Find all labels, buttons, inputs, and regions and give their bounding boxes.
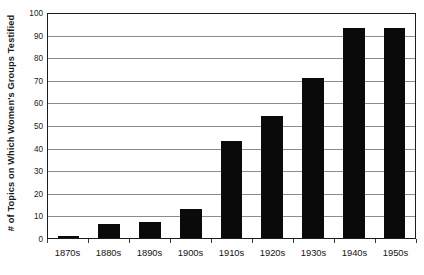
y-axis-tick-label: 70 [34, 76, 43, 85]
x-axis-tick-marks [47, 239, 416, 244]
y-axis-tick-label: 40 [34, 144, 43, 153]
bar-slot [333, 14, 374, 238]
x-axis-tick-label: 1940s [334, 245, 375, 265]
x-axis-tick-mark [47, 239, 48, 243]
bar-1890s [139, 222, 161, 238]
x-axis-tick-label: 1910s [211, 245, 252, 265]
bar-1920s [261, 116, 283, 238]
y-axis-tick-label: 20 [34, 189, 43, 198]
y-axis-tick-label: 90 [34, 31, 43, 40]
bar-1950s [384, 28, 406, 238]
bar-slot [170, 14, 211, 238]
y-axis-tick-label: 60 [34, 99, 43, 108]
x-axis-tick-label: 1920s [252, 245, 293, 265]
y-axis-tick-label: 30 [34, 167, 43, 176]
x-axis-tick-mark [170, 239, 171, 243]
bars-container [48, 14, 415, 238]
bar-1880s [98, 224, 120, 238]
plot-area [47, 13, 416, 239]
bar-slot [374, 14, 415, 238]
x-axis-tick-label: 1870s [47, 245, 88, 265]
y-axis-title: # of Topics on Which Women's Groups Test… [0, 0, 22, 246]
bar-slot [211, 14, 252, 238]
x-axis-tick-mark [211, 239, 212, 243]
y-axis-title-text: # of Topics on Which Women's Groups Test… [6, 15, 16, 231]
x-axis-tick-mark [293, 239, 294, 243]
bar-slot [48, 14, 89, 238]
bar-slot [293, 14, 334, 238]
bar-1870s [58, 236, 80, 238]
bar-slot [130, 14, 171, 238]
y-axis-tick-label: 100 [29, 9, 43, 18]
x-axis-tick-label: 1950s [375, 245, 416, 265]
bar-slot [89, 14, 130, 238]
y-axis-tick-label: 10 [34, 212, 43, 221]
x-axis-tick-mark [416, 239, 417, 243]
x-axis-tick-labels: 1870s1880s1890s1900s1910s1920s1930s1940s… [47, 245, 416, 265]
x-axis-tick-label: 1900s [170, 245, 211, 265]
bar-1930s [302, 78, 324, 238]
x-axis-tick-mark [129, 239, 130, 243]
bar-chart: # of Topics on Which Women's Groups Test… [0, 0, 424, 275]
x-axis-tick-label: 1890s [129, 245, 170, 265]
x-axis-tick-mark [252, 239, 253, 243]
x-axis-tick-mark [88, 239, 89, 243]
x-axis-tick-mark [334, 239, 335, 243]
bar-slot [252, 14, 293, 238]
x-axis-tick-label: 1880s [88, 245, 129, 265]
x-axis-tick-mark [375, 239, 376, 243]
x-axis-tick-label: 1930s [293, 245, 334, 265]
y-axis-tick-label: 0 [38, 235, 43, 244]
bar-1940s [343, 28, 365, 238]
y-axis-tick-label: 80 [34, 54, 43, 63]
bar-1910s [221, 141, 243, 238]
y-axis-tick-label: 50 [34, 122, 43, 131]
bar-1900s [180, 209, 202, 238]
y-axis-tick-labels: 0102030405060708090100 [20, 8, 46, 238]
